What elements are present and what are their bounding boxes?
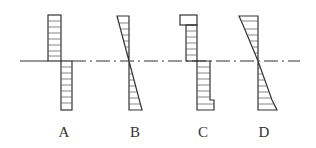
option-label-d: D [254, 124, 274, 141]
option-label-a: A [54, 124, 74, 141]
figure-d [239, 16, 277, 110]
figure-b [117, 16, 142, 110]
option-label-b: B [125, 124, 145, 141]
option-label-c: C [193, 124, 213, 141]
stress-distribution-diagram: A B C D [0, 0, 316, 148]
figure-c [180, 15, 214, 110]
figure-a [48, 15, 72, 110]
